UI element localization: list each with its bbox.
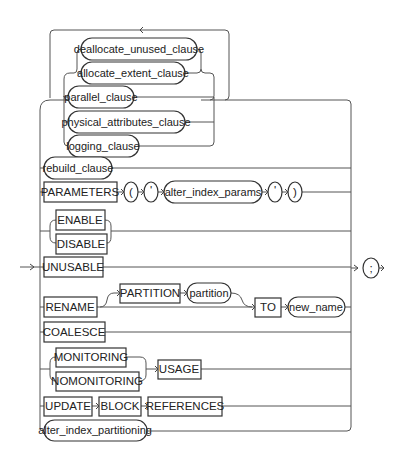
open-paren-terminal: ( <box>124 182 138 202</box>
node-label: new_name <box>289 301 343 313</box>
node-label: deallocate_unused_clause <box>74 43 204 55</box>
alter-index-params-node: alter_index_params <box>164 181 262 203</box>
node-label: alter_index_partitioning <box>38 424 152 436</box>
node-label: DISABLE <box>57 238 106 250</box>
node-label: ; <box>369 262 372 274</box>
entry-arrow <box>20 264 40 270</box>
rebuild-clause-node: rebuild_clause <box>43 157 114 179</box>
node-label: USAGE <box>159 363 200 375</box>
node-label: REFERENCES <box>146 400 225 412</box>
close-quote-terminal: ' <box>268 182 282 202</box>
partition-keyword: PARTITION <box>120 284 180 303</box>
partition-node: partition <box>187 283 231 303</box>
close-paren-terminal: ) <box>288 182 302 202</box>
parallel-clause-node: parallel_clause <box>64 86 137 108</box>
monitoring-keyword: MONITORING <box>54 348 129 367</box>
logging-clause-node: logging_clause <box>66 135 139 157</box>
node-label: physical_attributes_clause <box>61 116 190 128</box>
node-label: UPDATE <box>45 400 91 412</box>
node-label: ' <box>274 184 276 196</box>
parameters-keyword: PARAMETERS <box>41 182 120 202</box>
node-label: ENABLE <box>57 214 103 226</box>
node-label: allocate_extent_clause <box>77 67 189 79</box>
node-label: TO <box>260 301 276 313</box>
node-label: ) <box>293 186 297 198</box>
node-label: ' <box>150 184 152 196</box>
enable-keyword: ENABLE <box>56 210 105 230</box>
node-label: parallel_clause <box>64 91 137 103</box>
node-label: NOMONITORING <box>51 375 143 387</box>
allocate-extent-clause-node: allocate_extent_clause <box>77 62 189 84</box>
physical-attributes-clause-node: physical_attributes_clause <box>61 111 190 133</box>
node-label: rebuild_clause <box>43 162 114 174</box>
node-label: ( <box>129 186 133 198</box>
update-keyword: UPDATE <box>44 397 92 416</box>
disable-keyword: DISABLE <box>56 234 107 254</box>
block-keyword: BLOCK <box>99 397 141 416</box>
node-label: MONITORING <box>54 351 129 363</box>
node-label: COALESCE <box>43 326 106 338</box>
references-keyword: REFERENCES <box>146 397 225 416</box>
node-label: BLOCK <box>101 400 140 412</box>
right-rail <box>201 100 351 104</box>
node-label: partition <box>189 287 228 299</box>
node-label: PARTITION <box>120 287 180 299</box>
usage-keyword: USAGE <box>158 360 201 379</box>
coalesce-keyword: COALESCE <box>43 322 106 342</box>
railroad-diagram: deallocate_unused_clause allocate_extent… <box>0 0 406 458</box>
unusable-keyword: UNUSABLE <box>42 257 104 277</box>
nomonitoring-keyword: NOMONITORING <box>51 372 143 391</box>
alter-index-partitioning-node: alter_index_partitioning <box>38 420 152 441</box>
open-quote-terminal: ' <box>144 182 158 202</box>
node-label: RENAME <box>45 301 95 313</box>
node-label: PARAMETERS <box>41 186 120 198</box>
node-label: alter_index_params <box>165 186 262 198</box>
to-keyword: TO <box>255 298 281 317</box>
rename-keyword: RENAME <box>44 297 97 317</box>
deallocate-unused-clause-node: deallocate_unused_clause <box>74 38 204 60</box>
semicolon-terminal: ; <box>363 258 384 278</box>
new-name-node: new_name <box>288 297 345 317</box>
node-label: UNUSABLE <box>42 261 104 273</box>
node-label: logging_clause <box>66 140 139 152</box>
